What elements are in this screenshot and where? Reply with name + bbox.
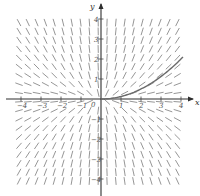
- slope-segment: [53, 169, 55, 176]
- slope-segment: [70, 117, 74, 123]
- slope-segment: [166, 55, 170, 60]
- slope-segment: [51, 92, 58, 94]
- slope-segment: [158, 152, 161, 158]
- slope-segment: [62, 19, 64, 26]
- slope-segment: [124, 151, 125, 158]
- slope-segment: [150, 37, 153, 43]
- slope-segment: [175, 55, 180, 60]
- slope-segment: [148, 101, 155, 102]
- slope-segment: [53, 160, 55, 167]
- slope-segment: [106, 116, 107, 123]
- slope-segment: [115, 28, 116, 35]
- slope-segment: [26, 19, 29, 25]
- slope-segment: [115, 169, 116, 176]
- slope-segment: [107, 134, 108, 141]
- slope-segment: [141, 134, 144, 140]
- slope-segment: [33, 92, 40, 93]
- slope-segment: [98, 107, 99, 114]
- slope-segment: [60, 82, 66, 86]
- slope-segment: [124, 142, 126, 149]
- slope-segment: [71, 55, 73, 62]
- slope-segment: [71, 169, 72, 176]
- slope-segment: [131, 117, 135, 122]
- slope-segment: [69, 82, 74, 87]
- slope-segment: [89, 142, 90, 149]
- slope-segment: [175, 135, 180, 140]
- slope-segment: [52, 64, 56, 70]
- slope-segment: [115, 54, 116, 61]
- slope-segment: [174, 92, 181, 93]
- slope-segment: [79, 81, 83, 87]
- slope-segment: [175, 152, 179, 158]
- slope-segment: [35, 28, 38, 34]
- slope-segment: [62, 143, 65, 149]
- slope-segment: [25, 126, 30, 130]
- slope-segment: [53, 37, 56, 44]
- slope-segment: [124, 37, 125, 44]
- slope-segment: [148, 109, 154, 112]
- slope-segment: [25, 74, 31, 78]
- slope-segment: [34, 126, 39, 131]
- slope-segment: [89, 178, 90, 185]
- slope-segment: [148, 73, 153, 78]
- slope-segment: [133, 19, 134, 26]
- slope-segment: [44, 28, 47, 34]
- slope-segment: [115, 116, 117, 123]
- slope-segment: [139, 92, 146, 94]
- slope-segment: [133, 169, 135, 176]
- slope-segment: [71, 178, 72, 185]
- slope-segment: [17, 160, 21, 166]
- slope-segment: [166, 126, 171, 131]
- slope-segment: [141, 55, 144, 61]
- slope-segment: [131, 73, 135, 79]
- slope-segment: [68, 101, 75, 102]
- slope-segment: [17, 178, 20, 184]
- slope-segment: [34, 118, 40, 122]
- slope-segment: [167, 19, 170, 25]
- slope-segment: [123, 116, 127, 122]
- slope-segment: [62, 37, 64, 44]
- slope-segment: [115, 160, 116, 167]
- slope-segment: [123, 125, 126, 132]
- slope-segment: [80, 160, 81, 167]
- slope-segment: [175, 37, 179, 43]
- slope-segment: [25, 83, 31, 86]
- y-axis-arrow-icon: [99, 3, 104, 9]
- x-tick-label: 3: [159, 102, 164, 110]
- slope-segment: [141, 160, 143, 167]
- slope-segment: [43, 134, 47, 140]
- slope-segment: [124, 54, 126, 61]
- slope-segment: [174, 83, 181, 86]
- slope-segment: [105, 90, 108, 96]
- slope-segment: [159, 178, 161, 185]
- slope-segment: [16, 64, 22, 68]
- slope-segment: [141, 19, 143, 26]
- slope-segment: [141, 178, 143, 185]
- slope-segment: [166, 134, 171, 139]
- slope-segment: [53, 143, 56, 149]
- y-tick-label: 3: [94, 36, 99, 44]
- slope-segment: [115, 142, 116, 149]
- slope-segment: [70, 63, 73, 69]
- slope-segment: [71, 142, 73, 149]
- y-tick-label: 2: [93, 56, 99, 64]
- slope-segment: [167, 46, 171, 52]
- slope-segment: [176, 178, 179, 184]
- slope-segment: [52, 73, 57, 78]
- slope-segment: [114, 108, 118, 114]
- slope-segment: [175, 126, 181, 130]
- slope-segment: [53, 28, 55, 35]
- slope-segment: [133, 160, 135, 167]
- slope-segment: [80, 19, 81, 26]
- x-tick-label: 2: [138, 102, 144, 110]
- slope-segment: [34, 134, 39, 139]
- slope-segment: [106, 107, 108, 114]
- slope-segment: [17, 46, 21, 51]
- slope-segment: [26, 143, 30, 149]
- slope-segment: [132, 125, 135, 131]
- slope-segment: [97, 90, 99, 97]
- slope-segment: [43, 64, 48, 69]
- slope-segment: [141, 151, 143, 158]
- slope-segment: [62, 151, 64, 158]
- slope-segment: [149, 134, 153, 140]
